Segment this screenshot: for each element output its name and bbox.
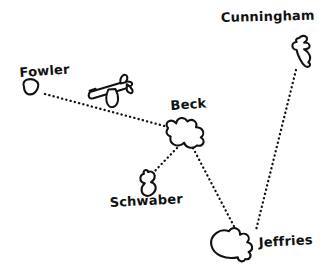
island-jeffries-outline <box>211 228 252 261</box>
island-label-cunningham: Cunningham <box>221 9 315 24</box>
map-graphics-layer <box>0 0 336 271</box>
island-label-beck: Beck <box>170 97 207 112</box>
island-cunningham-outline <box>292 36 310 67</box>
island-beck-outline <box>167 118 204 148</box>
airplane-icon <box>89 75 133 107</box>
route-beck-schwaber[interactable] <box>151 148 177 175</box>
island-jeffries[interactable] <box>211 228 252 261</box>
route-beck-jeffries[interactable] <box>193 148 237 232</box>
routes-group <box>45 70 296 232</box>
island-cunningham[interactable] <box>292 36 310 67</box>
airplane-wing <box>106 89 118 107</box>
island-label-jeffries: Jeffries <box>258 233 313 249</box>
island-beck[interactable] <box>167 118 204 148</box>
island-fowler-outline <box>23 79 38 94</box>
island-route-map: Fowler Cunningham Beck Schwaber Jeffries <box>0 0 336 271</box>
island-fowler[interactable] <box>23 79 38 94</box>
route-cunningham-jeffries[interactable] <box>256 70 296 230</box>
airplane-tail-fin <box>120 75 127 84</box>
island-label-fowler: Fowler <box>19 63 70 79</box>
island-label-schwaber: Schwaber <box>109 192 183 209</box>
